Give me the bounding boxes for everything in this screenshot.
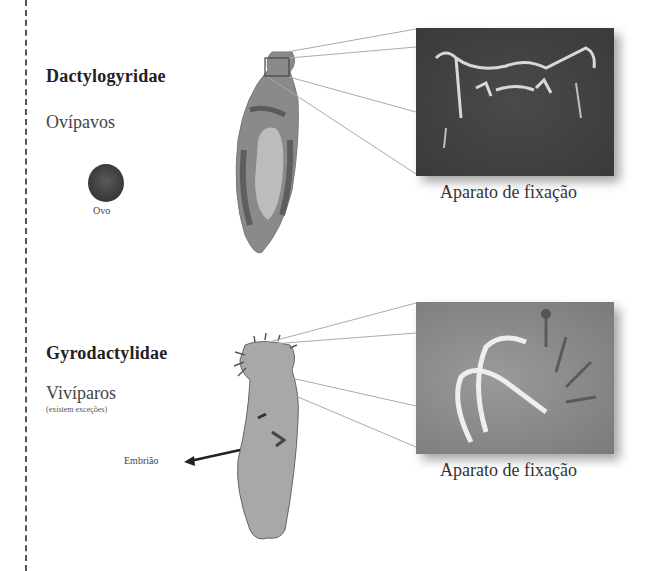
specimen-drawings [0,0,657,571]
dactylogyrid-specimen [236,52,298,253]
embryo-arrow-icon [184,450,240,466]
gyrodactylid-specimen [234,333,298,539]
